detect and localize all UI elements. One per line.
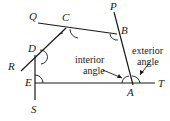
label-r: R xyxy=(7,60,15,72)
label-c: C xyxy=(62,11,70,23)
label-d: D xyxy=(27,42,36,54)
interior-label-line1: interior xyxy=(75,54,105,65)
label-p: P xyxy=(109,0,117,12)
label-a: A xyxy=(126,86,134,98)
interior-label-line2: angle xyxy=(83,65,105,76)
angle-arc-b xyxy=(110,34,118,40)
angle-arc-c xyxy=(70,29,78,38)
label-t: T xyxy=(158,77,165,89)
label-q: Q xyxy=(29,10,37,22)
exterior-label-line2: angle xyxy=(137,56,159,67)
interior-angle-arc-a xyxy=(122,76,129,83)
exterior-label-line1: exterior xyxy=(132,45,164,56)
exterior-angle-arc-a xyxy=(132,76,140,83)
angle-arc-e xyxy=(35,75,43,83)
label-e: E xyxy=(24,76,32,88)
polygon-diagram: Q C P B D R E S A T interior angle exter… xyxy=(0,0,170,121)
angle-arc-c2 xyxy=(58,33,63,36)
line-qc-b xyxy=(38,23,117,34)
label-s: S xyxy=(31,103,37,115)
line-p-b-a xyxy=(114,12,133,85)
label-b: B xyxy=(121,24,128,36)
